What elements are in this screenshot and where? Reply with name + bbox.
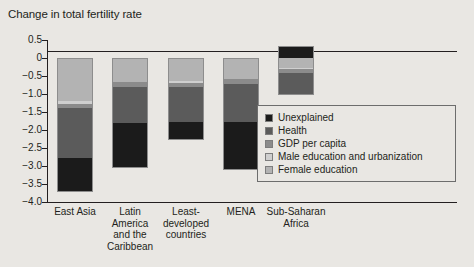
- bar-segment-unexplained[interactable]: [223, 122, 259, 170]
- legend-label: GDP per capita: [278, 139, 346, 149]
- bar-segment-unexplained[interactable]: [168, 122, 204, 140]
- legend-item[interactable]: Male education and urbanization: [265, 150, 449, 163]
- y-axis-tick-label: 0: [4, 52, 42, 63]
- bar-segment-health[interactable]: [112, 87, 148, 123]
- bar-segment-female-education[interactable]: [223, 58, 259, 79]
- legend-item[interactable]: Female education: [265, 163, 449, 176]
- bar-segment-unexplained[interactable]: [57, 158, 93, 192]
- legend-swatch-icon: [265, 153, 273, 161]
- bar-segment-health[interactable]: [57, 108, 93, 158]
- bar-segment-health[interactable]: [223, 84, 259, 122]
- legend-label: Health: [278, 126, 307, 136]
- chart-canvas: Change in total fertility rate 0.50−0.5−…: [0, 0, 474, 267]
- y-axis-tick-label: −1.0: [4, 88, 42, 99]
- legend-label: Unexplained: [278, 113, 334, 123]
- y-axis-tick-label: 0.5: [4, 34, 42, 45]
- bar-segment-female-education[interactable]: [168, 58, 204, 81]
- bar-segment-female-education[interactable]: [57, 58, 93, 101]
- y-axis-tick-label: −2.0: [4, 124, 42, 135]
- bar-segment-female-education[interactable]: [112, 58, 148, 82]
- y-axis-tick-label: −1.5: [4, 106, 42, 117]
- legend-item[interactable]: Health: [265, 124, 449, 137]
- y-axis-line: [47, 40, 48, 203]
- y-axis-tick-label: −2.5: [4, 142, 42, 153]
- legend-swatch-icon: [265, 140, 273, 148]
- chart-legend: UnexplainedHealthGDP per capitaMale educ…: [257, 105, 456, 182]
- legend-label: Male education and urbanization: [278, 152, 423, 162]
- bar-segment-unexplained[interactable]: [278, 46, 314, 58]
- legend-swatch-icon: [265, 166, 273, 174]
- bar-segment-health[interactable]: [168, 87, 204, 122]
- y-axis-labels: 0.50−0.5−1.0−1.5−2.0−2.5−3.0−3.5−4.0: [0, 0, 42, 267]
- bar-segment-female-education[interactable]: [278, 58, 314, 68]
- legend-swatch-icon: [265, 127, 273, 135]
- y-axis-tick-label: −3.0: [4, 160, 42, 171]
- legend-item[interactable]: GDP per capita: [265, 137, 449, 150]
- bar-segment-unexplained[interactable]: [112, 123, 148, 168]
- legend-label: Female education: [278, 165, 358, 175]
- legend-swatch-icon: [265, 114, 273, 122]
- y-axis-tick-label: −3.5: [4, 178, 42, 189]
- y-axis-tick-label: −0.5: [4, 70, 42, 81]
- category-label: Sub-Saharan Africa: [251, 206, 341, 229]
- legend-item[interactable]: Unexplained: [265, 111, 449, 124]
- bar-segment-health[interactable]: [278, 73, 314, 96]
